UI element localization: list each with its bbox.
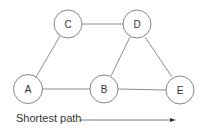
node-d-label: D [133, 19, 140, 30]
edge-c-a [36, 36, 60, 77]
edge-d-b [111, 37, 130, 76]
node-b-label: B [101, 84, 108, 95]
edge-d-e [145, 37, 172, 77]
caption: Shortest path [16, 112, 81, 124]
node-e-label: E [177, 85, 184, 96]
edge-b-e [118, 89, 166, 90]
arrow-icon [80, 118, 176, 122]
node-a-label: A [25, 84, 32, 95]
node-c-label: C [64, 19, 71, 30]
